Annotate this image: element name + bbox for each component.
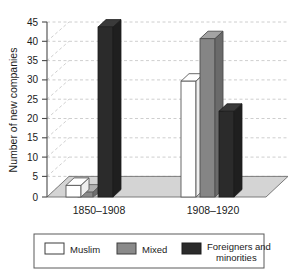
legend-label-foreigners-line1: Foreigners and (207, 241, 271, 252)
plot-background (47, 22, 288, 197)
chart-canvas: 45 40 35 30 25 20 15 10 5 0 Number of ne… (0, 0, 294, 273)
y-tick-label: 0 (32, 192, 38, 203)
y-axis (42, 22, 47, 197)
legend-swatch-mixed (117, 243, 136, 254)
bar-1908-1920-foreigners (219, 104, 242, 197)
y-tick-label: 5 (32, 171, 38, 182)
bar-1850-1908-foreigners (98, 20, 121, 197)
bar-chart: 45 40 35 30 25 20 15 10 5 0 Number of ne… (0, 0, 294, 273)
y-axis-title-text: Number of new companies (7, 48, 19, 173)
y-tick-label: 10 (27, 152, 39, 163)
y-tick-label: 20 (27, 113, 39, 124)
x-category-labels: 1850–1908 1908–1920 (73, 204, 240, 216)
y-tick-label: 15 (27, 132, 39, 143)
y-axis-title: Number of new companies (7, 48, 19, 173)
x-tick-label: 1850–1908 (73, 204, 126, 216)
x-tick-label: 1908–1920 (187, 204, 240, 216)
y-tick-label: 30 (27, 74, 39, 85)
y-tick-label: 45 (27, 17, 39, 28)
legend-label-mixed: Mixed (142, 244, 167, 255)
legend-swatch-foreigners (182, 243, 201, 254)
legend-label-muslim: Muslim (70, 244, 100, 255)
legend-label-foreigners-line2: minorities (216, 252, 257, 263)
legend-swatch-muslim (45, 243, 64, 254)
legend: Muslim Mixed Foreigners and minorities (34, 234, 271, 268)
y-tick-labels: 45 40 35 30 25 20 15 10 5 0 (27, 17, 39, 203)
y-tick-label: 35 (27, 55, 39, 66)
y-tick-label: 40 (27, 36, 39, 47)
y-tick-label: 25 (27, 94, 39, 105)
